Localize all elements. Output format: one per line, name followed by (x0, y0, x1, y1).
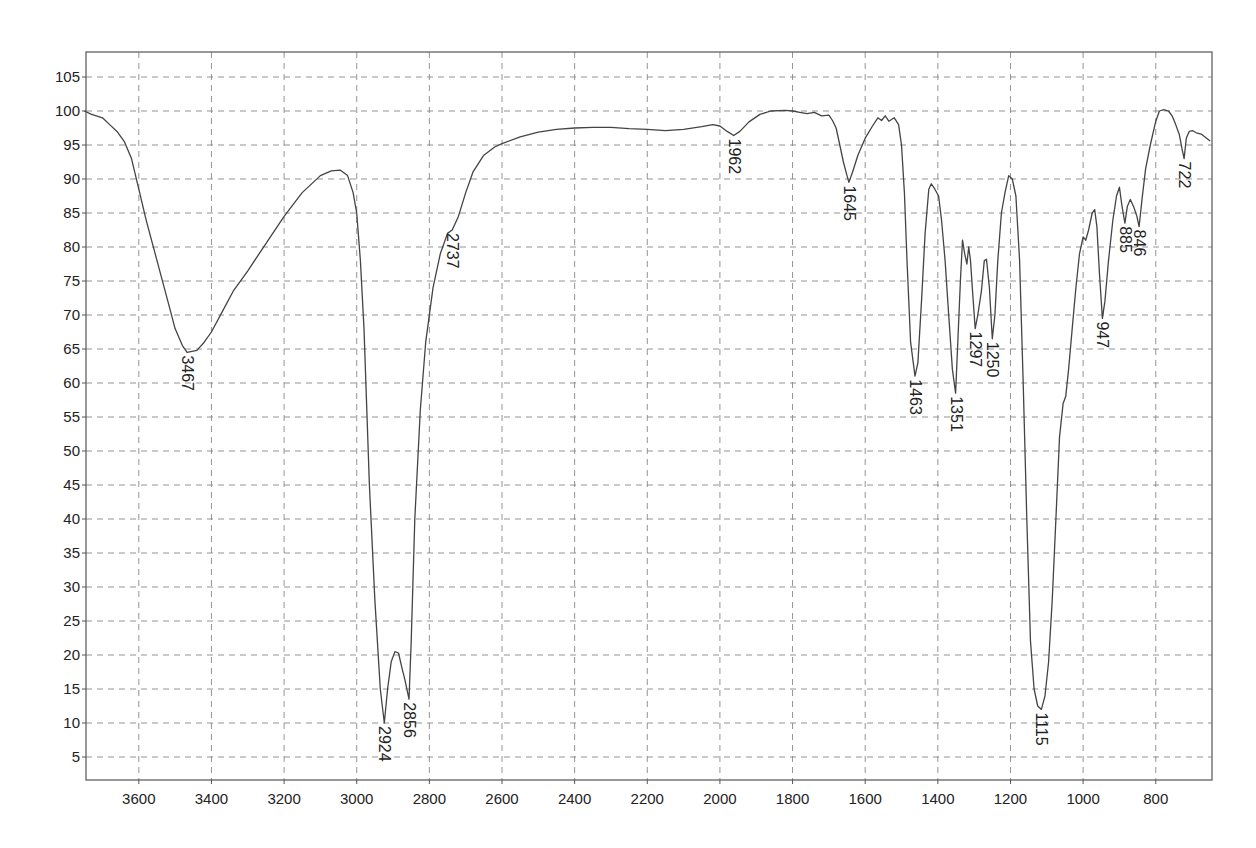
y-tick-label: 15 (63, 680, 80, 697)
svg-text:2924: 2924 (376, 726, 393, 762)
svg-text:1962: 1962 (726, 138, 743, 174)
y-tick-label: 85 (63, 204, 80, 221)
y-tick-label: 45 (63, 476, 80, 493)
svg-text:947: 947 (1094, 321, 1111, 348)
svg-text:2856: 2856 (401, 702, 418, 738)
y-tick-label: 95 (63, 136, 80, 153)
y-tick-label: 105 (55, 68, 80, 85)
svg-text:846: 846 (1131, 230, 1148, 257)
x-tick-label: 2200 (631, 790, 664, 807)
x-tick-label: 3400 (195, 790, 228, 807)
ir-spectrum-chart: 5101520253035404550556065707580859095100… (0, 0, 1256, 848)
peak-label: 1115 (1033, 712, 1050, 745)
peak-label: 2737 (444, 233, 461, 269)
peak-label: 1250 (984, 342, 1001, 378)
peak-label: 1351 (948, 396, 965, 432)
y-tick-label: 25 (63, 612, 80, 629)
x-tick-label: 3600 (122, 790, 155, 807)
svg-text:2737: 2737 (444, 233, 461, 269)
svg-text:1463: 1463 (907, 379, 924, 415)
svg-text:1297: 1297 (967, 332, 984, 368)
x-tick-label: 800 (1143, 790, 1168, 807)
y-tick-label: 70 (63, 306, 80, 323)
y-tick-label: 5 (72, 748, 80, 765)
peak-label: 947 (1094, 321, 1111, 348)
y-tick-label: 30 (63, 578, 80, 595)
y-tick-label: 80 (63, 238, 80, 255)
y-tick-label: 10 (63, 714, 80, 731)
x-tick-label: 1000 (1066, 790, 1099, 807)
x-tick-label: 1400 (921, 790, 954, 807)
chart-canvas: 5101520253035404550556065707580859095100… (0, 0, 1256, 848)
peak-label: 1962 (726, 138, 743, 174)
y-tick-label: 75 (63, 272, 80, 289)
x-tick-label: 1200 (994, 790, 1027, 807)
svg-text:722: 722 (1176, 162, 1193, 189)
peak-label: 1645 (841, 185, 858, 221)
svg-text:1115: 1115 (1033, 712, 1050, 745)
peak-label: 3467 (179, 355, 196, 391)
y-tick-label: 35 (63, 544, 80, 561)
svg-text:1351: 1351 (948, 396, 965, 432)
peak-label: 1297 (967, 332, 984, 368)
x-tick-label: 1600 (849, 790, 882, 807)
x-tick-label: 3200 (267, 790, 300, 807)
y-tick-label: 40 (63, 510, 80, 527)
y-tick-label: 100 (55, 102, 80, 119)
y-tick-label: 20 (63, 646, 80, 663)
y-tick-label: 50 (63, 442, 80, 459)
x-tick-label: 3000 (340, 790, 373, 807)
y-tick-label: 55 (63, 408, 80, 425)
peak-label: 722 (1176, 162, 1193, 189)
svg-text:1250: 1250 (984, 342, 1001, 378)
peak-label: 1463 (907, 379, 924, 415)
y-tick-label: 90 (63, 170, 80, 187)
peak-label: 2856 (401, 702, 418, 738)
x-tick-label: 1800 (776, 790, 809, 807)
peak-label: 846 (1131, 230, 1148, 257)
x-tick-label: 2000 (703, 790, 736, 807)
peak-label: 2924 (376, 726, 393, 762)
x-tick-label: 2600 (485, 790, 518, 807)
x-tick-label: 2400 (558, 790, 591, 807)
x-tick-label: 2800 (413, 790, 446, 807)
chart-background (0, 0, 1256, 848)
y-tick-label: 65 (63, 340, 80, 357)
svg-text:3467: 3467 (179, 355, 196, 391)
y-tick-label: 60 (63, 374, 80, 391)
svg-text:1645: 1645 (841, 185, 858, 221)
